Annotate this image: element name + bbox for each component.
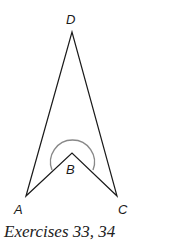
label-c: C [118,202,128,217]
figure-caption: Exercises 33, 34 [0,222,171,242]
label-b: B [66,162,75,177]
label-d: D [66,12,75,27]
label-a: A [13,202,23,217]
concave-quadrilateral-diagram: D B A C [0,0,171,243]
